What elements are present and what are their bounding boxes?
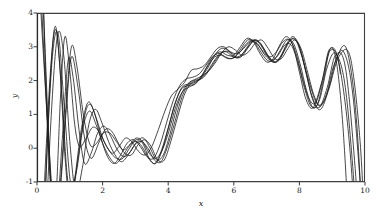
x-axis-title: x xyxy=(199,200,204,208)
figure-container: 0246810 -101234 x y xyxy=(0,0,386,215)
y-tick-label: -1 xyxy=(23,178,33,186)
y-tick-label: 4 xyxy=(23,9,33,17)
x-tick-label: 0 xyxy=(35,187,40,195)
y-axis-title: y xyxy=(11,94,19,99)
x-tick-label: 10 xyxy=(360,187,370,195)
x-tick-label: 8 xyxy=(297,187,302,195)
y-tick-label: 0 xyxy=(23,144,33,152)
chart-canvas xyxy=(0,0,386,215)
y-tick-label: 1 xyxy=(23,111,33,119)
x-tick-label: 4 xyxy=(166,187,171,195)
y-tick-label: 2 xyxy=(23,77,33,85)
plot-area-background xyxy=(37,13,365,182)
y-tick-label: 3 xyxy=(23,43,33,51)
x-tick-label: 6 xyxy=(231,187,236,195)
x-tick-label: 2 xyxy=(100,187,105,195)
